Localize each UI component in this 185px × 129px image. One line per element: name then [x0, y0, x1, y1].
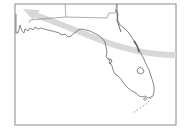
map-frame	[15, 4, 176, 125]
map-canvas	[0, 0, 185, 129]
map-figure	[0, 0, 185, 129]
